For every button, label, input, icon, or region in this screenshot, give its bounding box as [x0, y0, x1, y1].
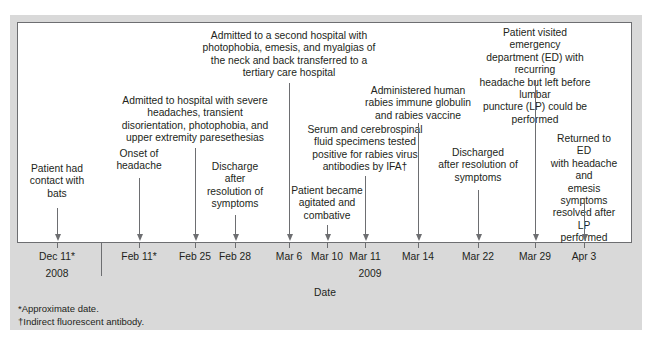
arrow-down-icon [55, 234, 61, 241]
arrow-down-icon [325, 234, 331, 241]
event-label: Administered human rabies immune globuli… [365, 85, 471, 122]
event-connector-line [235, 215, 236, 236]
date-label: Feb 28 [219, 251, 251, 262]
axis-tick [478, 243, 479, 248]
year-label: 2008 [46, 268, 69, 279]
arrow-down-icon [363, 234, 369, 241]
axis-tick [57, 243, 58, 248]
event-connector-line [365, 176, 366, 236]
axis-tick [365, 243, 366, 248]
footnote-approximate: *Approximate date. [18, 303, 99, 314]
date-label: Mar 10 [311, 251, 343, 262]
date-label: Feb 25 [179, 251, 211, 262]
year-label: 2009 [359, 268, 382, 279]
arrow-down-icon [476, 234, 482, 241]
event-label: Admitted to hospital with severe headach… [122, 95, 269, 145]
date-label: Mar 11 [349, 251, 380, 262]
axis-tick [235, 243, 236, 248]
arrow-down-icon [582, 234, 588, 241]
date-label: Mar 14 [402, 251, 434, 262]
arrow-down-icon [287, 234, 293, 241]
axis-tick [139, 243, 140, 248]
event-label: Patient had contact with bats [30, 163, 84, 200]
arrow-down-icon [533, 234, 539, 241]
year-separator [101, 243, 102, 276]
event-connector-line [289, 83, 290, 236]
event-label: Onset of headache [116, 148, 161, 173]
event-connector-line [418, 123, 419, 236]
arrow-down-icon [233, 234, 239, 241]
axis-tick [289, 243, 290, 248]
arrow-down-icon [193, 234, 199, 241]
footnote-ifa: †Indirect fluorescent antibody. [18, 316, 144, 327]
axis-title: Date [314, 287, 336, 298]
axis-tick [418, 243, 419, 248]
axis-tick [195, 243, 196, 248]
event-label: Serum and cerebrospinal fluid specimens … [307, 124, 422, 174]
event-connector-line [57, 208, 58, 236]
date-label: Dec 11* [39, 251, 75, 262]
event-label: Admitted to a second hospital with photo… [203, 30, 376, 80]
axis-tick [535, 243, 536, 248]
date-label: Apr 3 [572, 251, 597, 262]
date-label: Mar 22 [462, 251, 494, 262]
event-connector-line [195, 148, 196, 236]
arrow-down-icon [137, 234, 143, 241]
event-label: Discharged after resolution of symptoms [438, 147, 518, 184]
axis-tick [584, 243, 585, 248]
date-label: Mar 29 [519, 251, 551, 262]
event-label: Discharge after resolution of symptoms [207, 161, 263, 211]
event-connector-line [535, 80, 536, 236]
event-label: Patient became agitated and combative [291, 185, 363, 222]
event-connector-line [478, 190, 479, 236]
event-connector-line [139, 178, 140, 236]
event-connector-line [584, 198, 585, 236]
axis-tick [327, 243, 328, 248]
date-label: Feb 11* [121, 251, 156, 262]
date-label: Mar 6 [276, 251, 302, 262]
arrow-down-icon [416, 234, 422, 241]
